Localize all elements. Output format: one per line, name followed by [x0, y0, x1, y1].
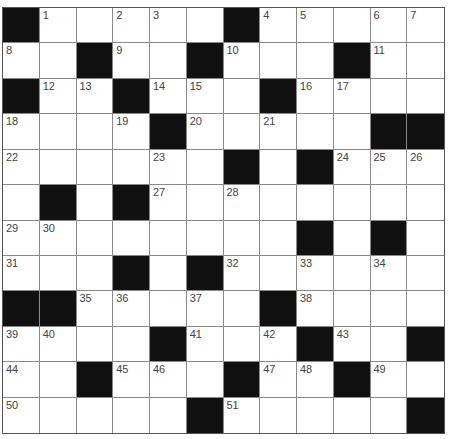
grid-cell[interactable]: 51 — [224, 398, 261, 433]
grid-cell[interactable] — [187, 362, 224, 397]
grid-cell[interactable] — [260, 221, 297, 256]
grid-cell[interactable]: 17 — [334, 79, 371, 114]
grid-cell[interactable] — [297, 114, 334, 149]
grid-cell[interactable] — [224, 327, 261, 362]
grid-cell[interactable] — [334, 8, 371, 43]
grid-cell[interactable] — [371, 327, 408, 362]
grid-cell[interactable] — [407, 79, 444, 114]
grid-cell[interactable] — [224, 221, 261, 256]
grid-cell[interactable] — [113, 150, 150, 185]
grid-cell[interactable] — [334, 256, 371, 291]
grid-cell[interactable] — [371, 79, 408, 114]
grid-cell[interactable] — [40, 362, 77, 397]
grid-cell[interactable] — [187, 150, 224, 185]
grid-cell[interactable] — [113, 398, 150, 433]
grid-cell[interactable]: 13 — [77, 79, 114, 114]
grid-cell[interactable] — [297, 398, 334, 433]
grid-cell[interactable] — [224, 79, 261, 114]
grid-cell[interactable] — [187, 8, 224, 43]
grid-cell[interactable] — [150, 256, 187, 291]
grid-cell[interactable]: 34 — [371, 256, 408, 291]
grid-cell[interactable] — [260, 185, 297, 220]
grid-cell[interactable] — [113, 221, 150, 256]
grid-cell[interactable]: 19 — [113, 114, 150, 149]
grid-cell[interactable] — [334, 291, 371, 326]
grid-cell[interactable]: 43 — [334, 327, 371, 362]
grid-cell[interactable] — [407, 43, 444, 78]
grid-cell[interactable]: 7 — [407, 8, 444, 43]
grid-cell[interactable] — [150, 221, 187, 256]
grid-cell[interactable] — [113, 327, 150, 362]
grid-cell[interactable]: 48 — [297, 362, 334, 397]
grid-cell[interactable] — [371, 291, 408, 326]
grid-cell[interactable]: 45 — [113, 362, 150, 397]
grid-cell[interactable]: 36 — [113, 291, 150, 326]
grid-cell[interactable]: 4 — [260, 8, 297, 43]
grid-cell[interactable] — [407, 256, 444, 291]
grid-cell[interactable]: 28 — [224, 185, 261, 220]
grid-cell[interactable] — [297, 43, 334, 78]
grid-cell[interactable]: 42 — [260, 327, 297, 362]
grid-cell[interactable]: 27 — [150, 185, 187, 220]
grid-cell[interactable] — [77, 221, 114, 256]
grid-cell[interactable] — [407, 185, 444, 220]
grid-cell[interactable] — [40, 256, 77, 291]
grid-cell[interactable]: 25 — [371, 150, 408, 185]
grid-cell[interactable]: 10 — [224, 43, 261, 78]
grid-cell[interactable] — [77, 256, 114, 291]
grid-cell[interactable]: 8 — [3, 43, 40, 78]
grid-cell[interactable]: 29 — [3, 221, 40, 256]
grid-cell[interactable] — [334, 185, 371, 220]
grid-cell[interactable] — [334, 398, 371, 433]
grid-cell[interactable]: 26 — [407, 150, 444, 185]
grid-cell[interactable]: 30 — [40, 221, 77, 256]
grid-cell[interactable]: 9 — [113, 43, 150, 78]
grid-cell[interactable] — [407, 221, 444, 256]
grid-cell[interactable]: 39 — [3, 327, 40, 362]
grid-cell[interactable] — [260, 43, 297, 78]
grid-cell[interactable]: 16 — [297, 79, 334, 114]
grid-cell[interactable] — [371, 185, 408, 220]
grid-cell[interactable]: 33 — [297, 256, 334, 291]
grid-cell[interactable] — [407, 291, 444, 326]
grid-cell[interactable]: 21 — [260, 114, 297, 149]
grid-cell[interactable] — [40, 150, 77, 185]
grid-cell[interactable]: 1 — [40, 8, 77, 43]
grid-cell[interactable] — [77, 327, 114, 362]
grid-cell[interactable]: 3 — [150, 8, 187, 43]
grid-cell[interactable]: 12 — [40, 79, 77, 114]
grid-cell[interactable] — [40, 398, 77, 433]
grid-cell[interactable] — [150, 291, 187, 326]
grid-cell[interactable]: 2 — [113, 8, 150, 43]
grid-cell[interactable] — [334, 114, 371, 149]
grid-cell[interactable] — [260, 398, 297, 433]
grid-cell[interactable] — [334, 221, 371, 256]
grid-cell[interactable]: 24 — [334, 150, 371, 185]
grid-cell[interactable] — [150, 43, 187, 78]
grid-cell[interactable]: 22 — [3, 150, 40, 185]
grid-cell[interactable] — [77, 185, 114, 220]
grid-cell[interactable] — [224, 114, 261, 149]
grid-cell[interactable] — [224, 291, 261, 326]
grid-cell[interactable]: 35 — [77, 291, 114, 326]
grid-cell[interactable] — [150, 398, 187, 433]
grid-cell[interactable]: 37 — [187, 291, 224, 326]
grid-cell[interactable] — [260, 256, 297, 291]
grid-cell[interactable] — [77, 8, 114, 43]
grid-cell[interactable]: 38 — [297, 291, 334, 326]
grid-cell[interactable] — [371, 398, 408, 433]
grid-cell[interactable] — [77, 150, 114, 185]
grid-cell[interactable] — [3, 185, 40, 220]
grid-cell[interactable] — [40, 114, 77, 149]
grid-cell[interactable]: 41 — [187, 327, 224, 362]
grid-cell[interactable] — [187, 221, 224, 256]
grid-cell[interactable]: 5 — [297, 8, 334, 43]
grid-cell[interactable]: 6 — [371, 8, 408, 43]
grid-cell[interactable]: 15 — [187, 79, 224, 114]
grid-cell[interactable] — [77, 114, 114, 149]
grid-cell[interactable]: 32 — [224, 256, 261, 291]
grid-cell[interactable] — [407, 362, 444, 397]
grid-cell[interactable]: 40 — [40, 327, 77, 362]
grid-cell[interactable]: 50 — [3, 398, 40, 433]
grid-cell[interactable]: 46 — [150, 362, 187, 397]
